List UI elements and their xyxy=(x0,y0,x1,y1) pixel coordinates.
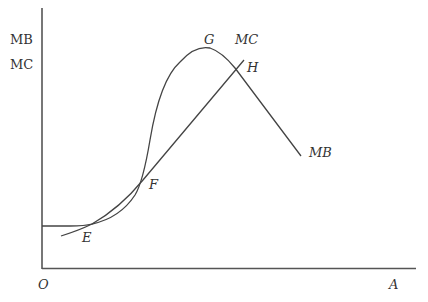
origin-label: O xyxy=(38,277,49,292)
point-e-label: E xyxy=(81,230,92,245)
point-g-label: G xyxy=(204,32,214,47)
mc-curve-label: MC xyxy=(234,32,258,47)
mb-mc-diagram: MB MC O A G MC H MB F E xyxy=(0,0,428,302)
mc-curve xyxy=(61,60,244,236)
point-f-label: F xyxy=(148,177,159,192)
mb-curve xyxy=(42,48,301,226)
mb-curve-label: MB xyxy=(308,145,332,160)
y-axis-label-mb: MB xyxy=(10,32,33,47)
x-axis-label: A xyxy=(388,277,398,292)
y-axis-label-mc: MC xyxy=(10,57,33,72)
point-h-label: H xyxy=(246,60,259,75)
